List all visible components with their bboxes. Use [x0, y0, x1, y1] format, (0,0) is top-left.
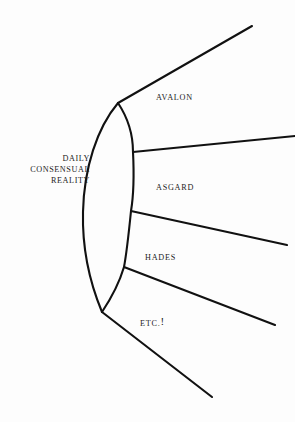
label-avalon: AVALON — [156, 93, 193, 104]
core-label-line-3: REALITY — [4, 176, 90, 187]
core-label-line-2: CONSENSUAL — [4, 165, 90, 176]
label-daily-consensual-reality: DAILY CONSENSUAL REALITY — [4, 154, 90, 186]
ray-asgard — [131, 211, 287, 245]
ray-avalon — [118, 26, 252, 103]
label-etc-exclamation: ! — [160, 315, 164, 327]
diagram-canvas: DAILY CONSENSUAL REALITY AVALON ASGARD H… — [0, 0, 295, 422]
lens-left-curve — [83, 103, 118, 312]
core-label-line-1: DAILY — [4, 154, 90, 165]
label-etc: ETC.! — [140, 314, 164, 330]
lens-right-curve — [102, 103, 134, 312]
label-hades: HADES — [145, 253, 176, 264]
diagram-linework — [0, 0, 295, 422]
label-etc-text: ETC. — [140, 319, 160, 328]
label-asgard: ASGARD — [156, 183, 194, 194]
ray-upper-right — [133, 136, 295, 152]
